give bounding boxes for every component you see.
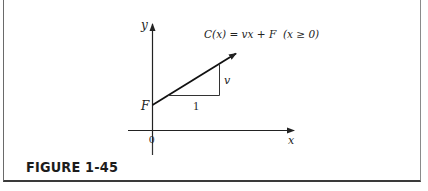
intercept-label: F — [140, 99, 150, 113]
y-axis-label: y — [140, 18, 148, 32]
origin-label: 0 — [149, 133, 155, 145]
x-axis-label: x — [288, 134, 295, 147]
figure-caption: FIGURE 1-45 — [26, 159, 118, 175]
equation-label: C(x) = vx + F (x ≥ 0) — [204, 28, 319, 40]
slope-rise-label: v — [224, 74, 231, 87]
slope-run-label: 1 — [193, 99, 199, 113]
